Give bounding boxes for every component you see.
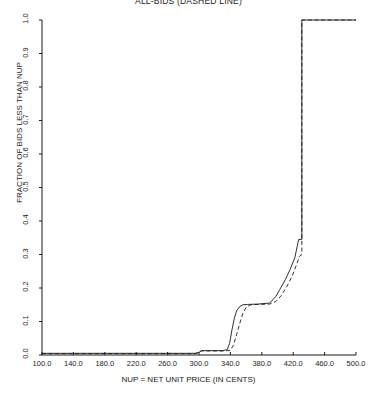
series-line-winning-bids	[42, 20, 356, 353]
data-series-group	[42, 20, 356, 354]
chart-figure: ALL-BIDS (DASHED LINE) FRACTION OF BIDS …	[0, 0, 377, 393]
series-line-all-bids	[42, 20, 356, 354]
axes	[39, 20, 356, 355]
plot-area	[0, 0, 377, 393]
